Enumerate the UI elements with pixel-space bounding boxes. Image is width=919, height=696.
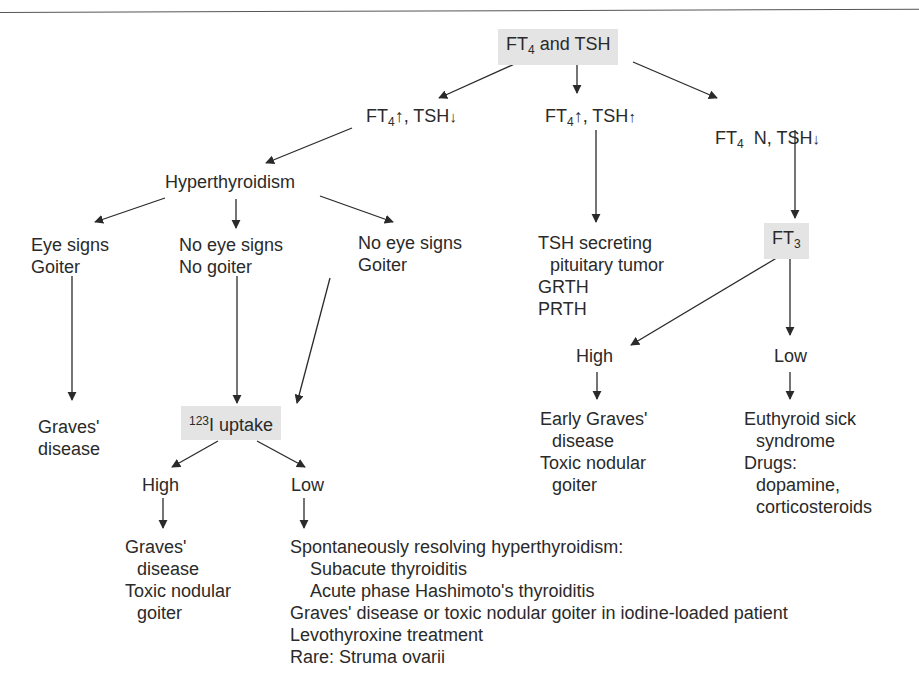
arrow-down-icon: ↓ — [812, 130, 820, 147]
node-line: Acute phase Hashimoto's thyroiditis — [290, 580, 788, 602]
ft3-low-result: Euthyroid sick syndrome Drugs: dopamine,… — [744, 408, 872, 518]
arrow-up-icon: ↑ — [628, 108, 636, 125]
branch-mid-mid: ↑, TSH — [574, 106, 629, 126]
graves-disease-node: Graves' disease — [38, 416, 100, 460]
root-label-post: and TSH — [535, 34, 611, 54]
node-line: disease — [540, 430, 647, 452]
iodine-uptake-node: 123I uptake — [181, 406, 281, 440]
node-line: Toxic nodular — [125, 580, 231, 602]
branch-ft4-high-tsh-low: FT4↑, TSH↓ — [366, 105, 457, 133]
ft3-sub: 3 — [794, 237, 801, 251]
uptake-high-node: High — [142, 474, 179, 496]
node-line: PRTH — [538, 298, 664, 320]
root-sub: 4 — [528, 43, 535, 57]
node-line: Levothyroxine treatment — [290, 624, 788, 646]
branch-ft4-normal-tsh-low: FT4 N, TSH↓ — [705, 105, 820, 155]
ft3-high-node: High — [576, 345, 613, 367]
root-label: FT — [506, 34, 528, 54]
hyperthyroidism-node: Hyperthyroidism — [165, 171, 295, 193]
branch-right-mid: N, TSH — [744, 128, 813, 148]
node-line: Spontaneously resolving hyperthyroidism: — [290, 536, 788, 558]
uptake-label: I uptake — [209, 415, 273, 435]
tsh-secreting-node: TSH secreting pituitary tumor GRTH PRTH — [538, 232, 664, 320]
no-eye-signs-goiter-node: No eye signs Goiter — [358, 232, 462, 276]
branch-right-pre: FT — [715, 128, 737, 148]
node-line: No goiter — [179, 256, 283, 278]
node-line: Euthyroid sick — [744, 408, 872, 430]
node-line: dopamine, — [744, 474, 872, 496]
branch-ft4-high-tsh-high: FT4↑, TSH↑ — [545, 105, 636, 133]
node-line: disease — [125, 558, 231, 580]
node-line: pituitary tumor — [538, 254, 664, 276]
root-node-ft4-tsh: FT4 and TSH — [498, 29, 618, 65]
node-line: Subacute thyroiditis — [290, 558, 788, 580]
node-line: No eye signs — [358, 232, 462, 254]
eye-signs-goiter-node: Eye signs Goiter — [31, 234, 109, 278]
node-line: Rare: Struma ovarii — [290, 646, 788, 668]
uptake-low-result: Spontaneously resolving hyperthyroidism:… — [290, 536, 788, 668]
node-line: Toxic nodular — [540, 452, 647, 474]
uptake-low-node: Low — [291, 474, 324, 496]
branch-mid-pre: FT — [545, 106, 567, 126]
node-line: Graves' disease or toxic nodular goiter … — [290, 602, 788, 624]
ft3-low-node: Low — [774, 345, 807, 367]
node-line: Goiter — [358, 254, 462, 276]
node-line: Graves' — [38, 416, 100, 438]
node-line: corticosteroids — [744, 496, 872, 518]
ft3-label: FT — [772, 228, 794, 248]
node-line: No eye signs — [179, 234, 283, 256]
node-line: TSH secreting — [538, 232, 664, 254]
node-line: GRTH — [538, 276, 664, 298]
isotope-sup: 123 — [189, 414, 209, 428]
ft3-node: FT3 — [764, 223, 809, 259]
node-line: disease — [38, 438, 100, 460]
branch-left-mid: ↑, TSH — [395, 106, 450, 126]
no-eye-signs-no-goiter-node: No eye signs No goiter — [179, 234, 283, 278]
ft3-high-result: Early Graves' disease Toxic nodular goit… — [540, 408, 647, 496]
branch-left-sub: 4 — [388, 115, 395, 129]
branch-mid-sub: 4 — [567, 115, 574, 129]
branch-right-sub: 4 — [737, 137, 744, 151]
node-line: Early Graves' — [540, 408, 647, 430]
uptake-high-result: Graves' disease Toxic nodular goiter — [125, 536, 231, 624]
node-line: Drugs: — [744, 452, 872, 474]
node-line: Graves' — [125, 536, 231, 558]
node-line: syndrome — [744, 430, 872, 452]
node-line: goiter — [125, 602, 231, 624]
node-line: Goiter — [31, 256, 109, 278]
branch-left-pre: FT — [366, 106, 388, 126]
arrow-down-icon: ↓ — [449, 108, 457, 125]
node-line: goiter — [540, 474, 647, 496]
node-line: Eye signs — [31, 234, 109, 256]
